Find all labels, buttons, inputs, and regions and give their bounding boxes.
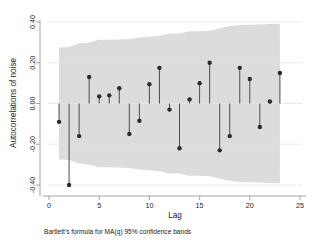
data-point-lag-19 bbox=[238, 66, 242, 70]
data-point-lag-3 bbox=[77, 134, 81, 138]
data-point-lag-21 bbox=[258, 125, 262, 129]
data-point-lag-14 bbox=[187, 97, 191, 101]
y-tick-label-3: -0.20 bbox=[28, 136, 37, 152]
y-tick-label-1: 0.20 bbox=[28, 56, 37, 70]
data-point-lag-10 bbox=[147, 82, 151, 86]
data-point-lag-17 bbox=[217, 148, 221, 152]
data-point-lag-11 bbox=[157, 66, 161, 70]
y-tick-label-2: 0.00 bbox=[28, 97, 37, 111]
y-tick-label-4: -0.40 bbox=[28, 177, 37, 193]
y-tick-label-0: 0.40 bbox=[28, 15, 37, 29]
acf-chart-figure: 0.400.200.00-0.20-0.40 0510152025 Lag Au… bbox=[0, 0, 317, 250]
data-point-lag-2 bbox=[67, 183, 71, 187]
data-point-lag-18 bbox=[228, 134, 232, 138]
x-tick-label-2: 10 bbox=[145, 201, 153, 210]
data-point-lag-8 bbox=[127, 132, 131, 136]
data-point-lag-12 bbox=[167, 107, 171, 111]
acf-plot-svg: 0.400.200.00-0.20-0.40 0510152025 Lag Au… bbox=[0, 0, 317, 250]
y-axis-title: Autocorrelations of noise bbox=[9, 58, 18, 149]
data-point-lag-22 bbox=[268, 99, 272, 103]
data-point-lag-1 bbox=[57, 120, 61, 124]
data-point-lag-15 bbox=[197, 81, 201, 85]
data-point-lag-5 bbox=[97, 94, 101, 98]
x-axis-title: Lag bbox=[168, 211, 182, 220]
confidence-band-note: Bartlett's formula for MA(q) 95% confide… bbox=[44, 228, 192, 236]
data-point-lag-4 bbox=[87, 75, 91, 79]
x-tick-label-4: 20 bbox=[246, 201, 254, 210]
x-tick-label-3: 15 bbox=[196, 201, 204, 210]
data-point-lag-9 bbox=[137, 119, 141, 123]
data-point-lag-7 bbox=[117, 86, 121, 90]
data-point-lag-16 bbox=[207, 61, 211, 65]
data-point-lag-20 bbox=[248, 77, 252, 81]
data-point-lag-23 bbox=[278, 71, 282, 75]
data-point-lag-6 bbox=[107, 93, 111, 97]
data-point-lag-13 bbox=[177, 146, 181, 150]
x-tick-label-0: 0 bbox=[47, 201, 51, 210]
x-tick-label-5: 25 bbox=[296, 201, 304, 210]
x-tick-label-1: 5 bbox=[97, 201, 101, 210]
